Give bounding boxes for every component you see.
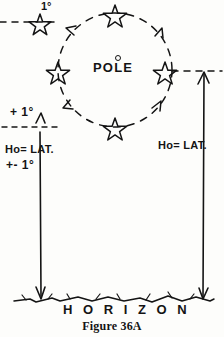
star-upper-left-observed xyxy=(29,14,51,35)
ho-equals-lat-right-label: Ho= LAT. xyxy=(158,140,207,151)
plus-minus-one-degree-label: +- 1° xyxy=(6,159,34,171)
right-sight-line xyxy=(198,72,209,299)
star-top xyxy=(103,5,126,27)
pole-label: POLE xyxy=(93,61,133,74)
plus-one-degree-label: + 1° xyxy=(10,106,34,118)
star-bottom xyxy=(103,118,126,140)
ho-equals-lat-left-label: Ho= LAT. xyxy=(5,144,54,155)
horizon-label: H O R I Z O N xyxy=(63,303,190,316)
top-star-degree-label: 1° xyxy=(41,1,52,12)
left-sight-line xyxy=(36,113,45,299)
star-right xyxy=(153,62,176,84)
horizon-ground-line xyxy=(14,292,214,302)
figure-caption: Figure 36A xyxy=(0,320,224,332)
